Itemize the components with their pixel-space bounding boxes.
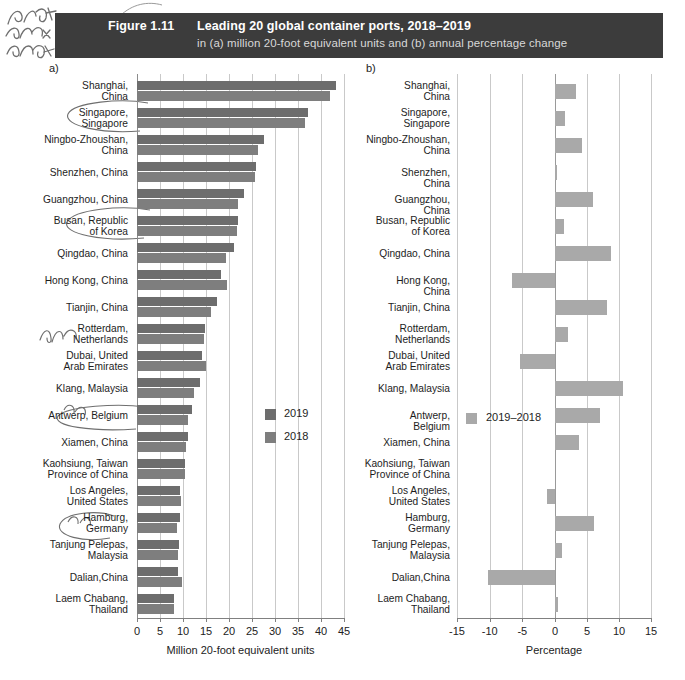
- panel-b-tick-label: 15: [635, 625, 667, 637]
- category-label-b: Ningbo-Zhoushan,China: [362, 134, 450, 157]
- bar-2018: [137, 199, 238, 209]
- category-label-a: Kaohsiung, TaiwanProvince of China: [10, 458, 128, 481]
- bar-change: [512, 273, 555, 289]
- bar-change: [520, 354, 555, 370]
- bar-2018: [137, 523, 177, 533]
- bar-change: [555, 597, 558, 613]
- panel-b-gridline: [651, 74, 652, 618]
- category-label-b: Shanghai,China: [362, 80, 450, 103]
- bar-2019: [137, 270, 221, 280]
- bar-2018: [137, 334, 204, 344]
- bar-2019: [137, 486, 180, 496]
- panel-b-tick: [490, 618, 491, 622]
- category-label-b: Singapore,Singapore: [362, 107, 450, 130]
- bar-2019: [137, 594, 174, 604]
- panel-b-tick: [457, 618, 458, 622]
- panel-a-tick: [183, 618, 184, 622]
- bar-2019: [137, 135, 264, 145]
- category-label-a: Ningbo-Zhoushan,China: [10, 134, 128, 157]
- panel-b-tick: [651, 618, 652, 622]
- category-label-a: Rotterdam,Netherlands: [10, 323, 128, 346]
- panel-b-tick-label: 10: [603, 625, 635, 637]
- bar-change: [488, 570, 555, 586]
- bar-2018: [137, 91, 330, 101]
- category-label-a: Qingdao, China: [10, 248, 128, 259]
- bar-2018: [137, 496, 181, 506]
- panel-a-tick: [298, 618, 299, 622]
- bar-2019: [137, 243, 234, 253]
- panel-a-tick: [321, 618, 322, 622]
- bar-change: [555, 435, 579, 451]
- legend-label-a: 2018: [284, 430, 308, 442]
- category-label-a: Laem Chabang,Thailand: [10, 593, 128, 616]
- category-label-b: Rotterdam,Netherlands: [362, 323, 450, 346]
- panel-b-tick: [522, 618, 523, 622]
- panel-a-gridline: [344, 74, 345, 618]
- panel-b-tick: [619, 618, 620, 622]
- bar-change: [555, 111, 565, 127]
- bar-2018: [137, 550, 178, 560]
- category-label-a: Guangzhou, China: [10, 194, 128, 205]
- category-label-b: Hong Kong, China: [372, 275, 450, 298]
- bar-2018: [137, 361, 206, 371]
- panel-a-gridline: [206, 74, 207, 618]
- bar-2018: [137, 415, 188, 425]
- legend-swatch-b: [466, 413, 477, 424]
- figure-page: Figure 1.11 Leading 20 global container …: [0, 0, 685, 680]
- category-label-a: Klang, Malaysia: [10, 383, 128, 394]
- bar-2019: [137, 459, 185, 469]
- bar-2019: [137, 567, 178, 577]
- bar-change: [555, 219, 564, 235]
- panel-a-gridline: [321, 74, 322, 618]
- category-label-b: Klang, Malaysia: [372, 383, 450, 394]
- panel-b-tick: [587, 618, 588, 622]
- bar-change: [547, 489, 556, 505]
- bar-2018: [137, 469, 185, 479]
- panel-a-tick: [137, 618, 138, 622]
- category-label-b: Shenzhen, China: [372, 167, 450, 190]
- panel-a-tick: [229, 618, 230, 622]
- category-label-b: Xiamen, China: [372, 437, 450, 448]
- bar-change: [555, 300, 607, 316]
- bar-2019: [137, 378, 200, 388]
- panel-a-gridline: [137, 74, 138, 618]
- panel-a-gridline: [183, 74, 184, 618]
- category-label-b: Laem Chabang,Thailand: [362, 593, 450, 616]
- bar-2019: [137, 162, 256, 172]
- bar-2018: [137, 307, 211, 317]
- bar-2019: [137, 108, 308, 118]
- panel-a-tick: [206, 618, 207, 622]
- panel-b-tick-label: -5: [506, 625, 538, 637]
- category-label-a: Antwerp, Belgium: [10, 410, 128, 421]
- panel-a-tick-label: 45: [330, 625, 358, 637]
- bar-change: [555, 138, 582, 154]
- panel-b-zero-line: [555, 74, 556, 618]
- category-label-b: Busan, Republicof Korea: [362, 215, 450, 238]
- category-label-b: Dubai, UnitedArab Emirates: [362, 350, 450, 373]
- panel-b-tick-label: 5: [571, 625, 603, 637]
- panel-a-gridline: [252, 74, 253, 618]
- panel-b-gridline: [522, 74, 523, 618]
- category-label-a: Tanjung Pelepas,Malaysia: [10, 539, 128, 562]
- bar-2018: [137, 226, 237, 236]
- panel-b-tick: [555, 618, 556, 622]
- panel-b-gridline: [457, 74, 458, 618]
- panel-a-gridline: [160, 74, 161, 618]
- legend-swatch-a: [265, 409, 276, 420]
- category-label-b: Tanjung Pelepas,Malaysia: [362, 539, 450, 562]
- category-label-a: Tianjin, China: [10, 302, 128, 313]
- category-label-a: Shanghai,China: [10, 80, 128, 103]
- panel-a-axis-title: Million 20-foot equivalent units: [97, 644, 384, 656]
- bar-change: [555, 84, 576, 100]
- bar-change: [555, 516, 594, 532]
- panel-a-tick: [275, 618, 276, 622]
- category-label-b: Tianjin, China: [372, 302, 450, 313]
- panel-b-axis-line: [457, 618, 651, 619]
- bar-2019: [137, 81, 336, 91]
- category-label-b: Qingdao, China: [372, 248, 450, 259]
- panel-a-gridline: [298, 74, 299, 618]
- bar-2019: [137, 540, 179, 550]
- bar-2018: [137, 280, 227, 290]
- category-label-a: Busan, Republicof Korea: [10, 215, 128, 238]
- category-label-a: Singapore,Singapore: [10, 107, 128, 130]
